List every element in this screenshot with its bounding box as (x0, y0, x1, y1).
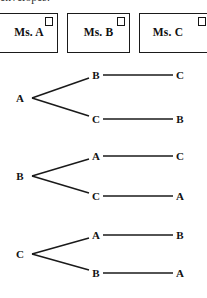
tree-edge-root-0-1 (32, 98, 89, 116)
tree-node-root-0: A (15, 93, 25, 104)
tree-edge-root-1-1 (32, 176, 89, 193)
tree-node-root-2: C (15, 249, 25, 260)
tree-edge-root-2-1 (32, 254, 89, 270)
tree-node-end-0-1: B (175, 114, 184, 125)
tree-edge-root-1-0 (32, 159, 89, 176)
permutation-tree-diagram: BCCBAACCABABBAC (0, 0, 207, 298)
tree-node-end-1-1: A (175, 191, 185, 202)
tree-node-end-1-0: C (175, 151, 185, 162)
tree-node-mid-2-1: B (91, 268, 100, 279)
tree-node-mid-1-0: A (91, 151, 101, 162)
tree-node-end-0-0: C (175, 70, 185, 81)
tree-node-mid-0-1: C (91, 114, 101, 125)
tree-node-mid-1-1: C (91, 191, 101, 202)
tree-edge-root-0-0 (32, 78, 89, 98)
tree-node-root-1: B (15, 171, 24, 182)
tree-node-mid-0-0: B (91, 70, 100, 81)
tree-edge-root-2-0 (32, 238, 89, 254)
tree-node-mid-2-0: A (91, 230, 101, 241)
page-root: envelopes. Ms. A Ms. B Ms. C BCCBAACCABA… (0, 0, 207, 298)
tree-node-end-2-0: B (175, 230, 184, 241)
tree-node-end-2-1: A (175, 268, 185, 279)
